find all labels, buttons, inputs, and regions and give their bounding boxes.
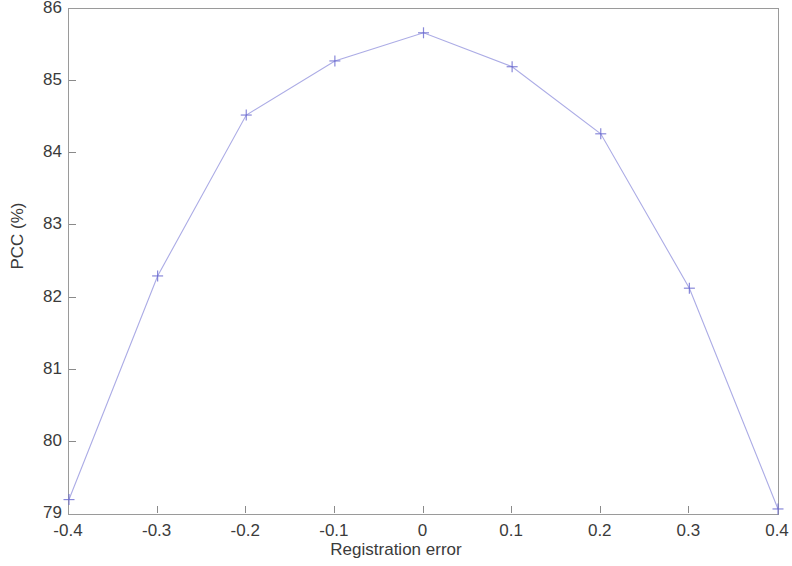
data-point-marker (329, 55, 340, 66)
x-axis-tick-label: 0.3 (658, 522, 718, 539)
x-axis-tick-label: -0.2 (215, 522, 275, 539)
x-axis-tick-label: 0.1 (481, 522, 541, 539)
x-axis-tick-mark (688, 506, 689, 513)
x-axis-tick-label: 0 (393, 522, 453, 539)
x-axis-title: Registration error (0, 540, 792, 560)
y-axis-tick-mark (69, 80, 76, 81)
data-point-marker (507, 61, 518, 72)
x-axis-tick-label: -0.1 (304, 522, 364, 539)
y-axis-tick-label: 84 (30, 143, 62, 160)
y-axis-tick-label: 85 (30, 71, 62, 88)
data-series-line (69, 33, 778, 509)
y-axis-tick-label: 83 (30, 215, 62, 232)
x-axis-tick-label: 0.2 (570, 522, 630, 539)
y-axis-tick-label: 79 (30, 504, 62, 521)
data-point-marker (241, 110, 252, 121)
y-axis-tick-mark (69, 441, 76, 442)
y-axis-tick-mark (69, 152, 76, 153)
y-axis-tick-label: 80 (30, 432, 62, 449)
x-axis-tick-label: 0.4 (747, 522, 792, 539)
y-axis-tick-mark (69, 297, 76, 298)
data-point-marker (773, 503, 784, 514)
x-axis-tick-mark (157, 506, 158, 513)
data-point-markers (64, 27, 784, 514)
x-axis-tick-mark (511, 506, 512, 513)
plot-canvas (69, 9, 778, 514)
plot-area (68, 8, 779, 515)
x-axis-tick-mark (423, 506, 424, 513)
y-axis-title: PCC (%) (8, 181, 28, 291)
x-axis-tick-mark (600, 506, 601, 513)
y-axis-tick-mark (69, 369, 76, 370)
x-axis-tick-mark (245, 506, 246, 513)
x-axis-tick-mark (334, 506, 335, 513)
y-axis-tick-label: 82 (30, 288, 62, 305)
data-point-marker (684, 283, 695, 294)
x-axis-tick-label: -0.3 (127, 522, 187, 539)
data-point-marker (418, 27, 429, 38)
data-point-marker (152, 270, 163, 281)
chart-figure: 7980818283848586 -0.4-0.3-0.2-0.100.10.2… (0, 0, 792, 566)
y-axis-tick-mark (69, 224, 76, 225)
data-point-marker (64, 494, 75, 505)
y-axis-tick-label: 86 (30, 0, 62, 16)
series-polyline (69, 33, 778, 509)
y-axis-tick-label: 81 (30, 360, 62, 377)
data-point-marker (595, 128, 606, 139)
x-axis-tick-label: -0.4 (38, 522, 98, 539)
